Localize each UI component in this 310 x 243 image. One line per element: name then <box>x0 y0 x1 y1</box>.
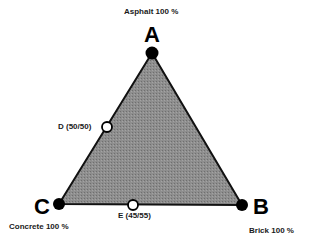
ternary-diagram: Asphalt 100 % A B Brick 100 % C Concrete… <box>0 0 310 243</box>
vertex-a-letter: A <box>144 24 160 46</box>
vertex-a-label: Asphalt 100 % <box>124 7 178 16</box>
vertex-c-marker <box>53 198 65 210</box>
point-d-marker <box>102 122 112 132</box>
vertex-b-marker <box>236 199 248 211</box>
vertex-b-label: Brick 100 % <box>249 226 294 235</box>
vertex-c-letter: C <box>34 196 50 218</box>
point-e-marker <box>128 200 138 210</box>
vertex-b-letter: B <box>253 196 269 218</box>
point-e-label: E (45/55) <box>118 211 151 220</box>
vertex-a-marker <box>146 47 159 60</box>
vertex-c-label: Concrete 100 % <box>9 222 69 231</box>
point-d-label: D (50/50) <box>58 122 91 131</box>
